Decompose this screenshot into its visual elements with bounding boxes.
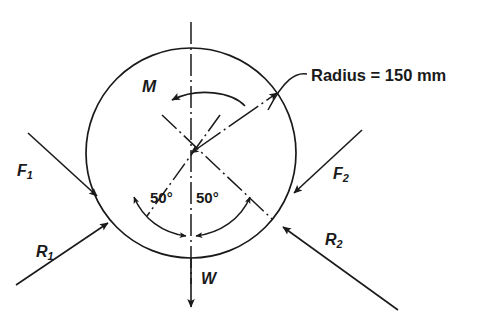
radius-leader-line <box>268 74 307 110</box>
moment-arc-arrow <box>172 92 245 106</box>
force-f2-arrow <box>294 130 362 193</box>
free-body-diagram: Radius = 150 mm M W F1 F2 R1 R2 50° 50° <box>0 0 484 329</box>
reaction-r2-label: R2 <box>325 232 343 250</box>
force-f1-symbol: F <box>17 162 27 179</box>
reaction-r2-subscript: 2 <box>337 238 343 250</box>
force-f1-subscript: 1 <box>27 169 33 181</box>
diagram-canvas <box>0 0 484 329</box>
reaction-r1-symbol: R <box>36 243 48 260</box>
angle-label-left: 50° <box>150 190 173 205</box>
force-f1-label: F1 <box>17 163 33 181</box>
force-f2-label: F2 <box>333 166 349 184</box>
radius-label: Radius = 150 mm <box>311 67 446 84</box>
angle-label-right: 50° <box>196 190 219 205</box>
weight-label: W <box>201 271 216 287</box>
force-f2-symbol: F <box>333 165 343 182</box>
reaction-r1-arrow <box>16 223 108 285</box>
radius-dimension-arrow <box>191 93 277 153</box>
force-f2-subscript: 2 <box>343 172 349 184</box>
moment-label: M <box>142 78 156 95</box>
reaction-r1-subscript: 1 <box>48 250 54 262</box>
reaction-r1-label: R1 <box>36 244 54 262</box>
reaction-r2-symbol: R <box>325 231 337 248</box>
